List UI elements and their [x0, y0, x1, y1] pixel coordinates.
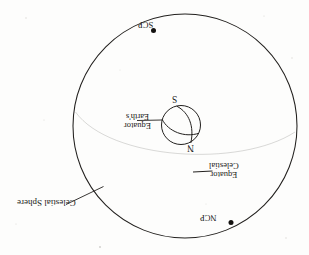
label-celestial-equator-line2: Equator [209, 170, 239, 179]
diagram-canvas [0, 0, 309, 255]
earths-equator-arc [162, 120, 199, 135]
label-celestial-sphere: Celestial Sphere [17, 198, 76, 207]
label-ncp: NCP [200, 213, 217, 222]
scan-speck [99, 246, 101, 248]
label-earths-equator-line1: Earth's [124, 112, 151, 121]
earth-axis-arc [177, 106, 192, 143]
label-scp-text: SCP [138, 20, 153, 30]
label-earths-equator-line2: Equator [124, 121, 151, 130]
celestial-sphere-diagram: SCP NCP Celestial Sphere Equator Celesti… [0, 0, 309, 255]
ncp-point-marker [229, 220, 234, 225]
celestial-equator-arc [76, 112, 296, 154]
earth-circle [162, 106, 201, 145]
label-celestial-equator: Equator Celestial [209, 161, 239, 179]
label-celestial-equator-line1: Celestial [209, 161, 239, 170]
label-pole-south-text: S [172, 94, 177, 104]
label-pole-north: N [187, 142, 194, 152]
celestial-sphere-circle [73, 14, 297, 238]
label-pole-south: S [172, 93, 177, 103]
label-earths-equator: Equator Earth's [124, 112, 151, 130]
label-pole-north-text: N [187, 143, 194, 153]
label-ncp-text: NCP [200, 213, 217, 223]
label-scp: SCP [138, 20, 153, 29]
label-celestial-sphere-text: Celestial Sphere [17, 198, 76, 208]
